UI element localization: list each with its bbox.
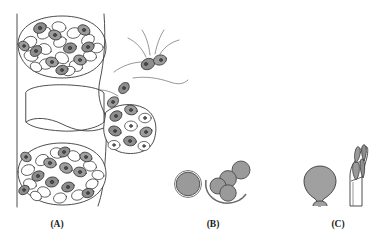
empty-chamber — [26, 85, 104, 131]
panel-label-c: (C) — [331, 219, 344, 230]
panel-label-b: (B) — [207, 219, 220, 230]
figure-canvas: (A) (B) (C) — [0, 0, 386, 241]
scientific-figure: (A) (B) (C) — [0, 0, 386, 241]
large-spore — [175, 171, 202, 198]
panel-label-a: (A) — [50, 219, 63, 230]
